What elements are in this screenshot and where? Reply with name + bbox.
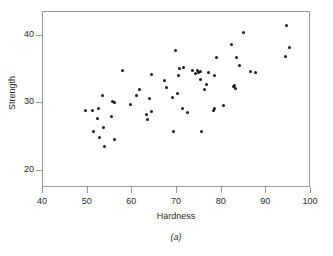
data-point xyxy=(111,100,114,103)
data-point xyxy=(284,55,287,58)
x-axis-tick-label: 100 xyxy=(295,196,325,206)
data-point xyxy=(110,115,113,118)
data-point xyxy=(138,88,141,91)
x-axis-tick xyxy=(265,187,266,193)
data-point xyxy=(213,107,216,110)
x-axis-tick xyxy=(42,187,43,193)
y-axis-tick xyxy=(36,170,42,171)
x-axis-tick xyxy=(221,187,222,193)
data-point xyxy=(176,92,179,95)
data-point xyxy=(215,56,218,59)
data-point xyxy=(249,70,252,73)
data-point xyxy=(197,71,200,74)
x-axis-tick-label: 70 xyxy=(161,196,191,206)
data-point xyxy=(84,109,87,112)
data-point xyxy=(148,97,151,100)
data-point xyxy=(150,73,153,76)
data-point xyxy=(178,67,181,70)
data-point xyxy=(207,71,210,74)
data-point xyxy=(232,85,235,88)
data-point xyxy=(234,87,237,90)
data-point xyxy=(172,130,175,133)
data-point xyxy=(98,136,101,139)
data-point xyxy=(103,145,106,148)
data-point xyxy=(199,70,202,73)
data-point xyxy=(213,74,216,77)
data-point xyxy=(165,86,168,89)
x-axis-label: Hardness xyxy=(42,211,310,221)
data-point xyxy=(135,94,138,97)
x-axis-tick-label: 40 xyxy=(27,196,57,206)
figure-caption: (a) xyxy=(42,232,310,242)
x-axis-tick xyxy=(310,187,311,193)
data-point xyxy=(196,69,199,72)
y-axis-tick xyxy=(36,35,42,36)
data-point xyxy=(102,126,105,129)
data-point xyxy=(113,138,116,141)
data-point xyxy=(174,49,177,52)
data-point xyxy=(203,88,206,91)
data-point xyxy=(129,103,132,106)
data-point xyxy=(92,130,95,133)
data-point xyxy=(186,111,189,114)
data-point xyxy=(181,107,184,110)
data-point xyxy=(242,31,245,34)
data-point xyxy=(233,84,236,87)
data-point xyxy=(205,83,208,86)
plot-frame xyxy=(42,11,310,187)
data-point xyxy=(171,96,174,99)
x-axis-tick-label: 50 xyxy=(72,196,102,206)
data-point xyxy=(194,72,197,75)
x-axis-tick-label: 60 xyxy=(116,196,146,206)
data-point xyxy=(91,109,94,112)
data-point xyxy=(191,69,194,72)
data-point xyxy=(200,130,203,133)
data-point xyxy=(150,110,153,113)
y-axis-label: Strength xyxy=(7,58,17,128)
data-point xyxy=(96,117,99,120)
data-point xyxy=(254,71,257,74)
x-axis-tick-label: 80 xyxy=(206,196,236,206)
x-axis-tick-label: 90 xyxy=(250,196,280,206)
data-point xyxy=(230,43,233,46)
data-point xyxy=(145,113,148,116)
data-point xyxy=(146,118,149,121)
scatter-plot-figure: Strength Hardness (a) 203040405060708090… xyxy=(0,0,333,256)
data-point xyxy=(113,101,116,104)
data-point xyxy=(199,78,202,81)
data-point xyxy=(285,24,288,27)
x-axis-tick xyxy=(176,187,177,193)
data-points-layer xyxy=(43,12,309,186)
data-point xyxy=(163,79,166,82)
data-point xyxy=(177,74,180,77)
y-axis-tick-label: 20 xyxy=(8,165,34,174)
x-axis-tick xyxy=(131,187,132,193)
y-axis-tick-label: 40 xyxy=(8,30,34,39)
data-point xyxy=(238,64,241,67)
data-point xyxy=(288,46,291,49)
data-point xyxy=(121,69,124,72)
data-point xyxy=(101,94,104,97)
data-point xyxy=(212,109,215,112)
y-axis-tick xyxy=(36,102,42,103)
data-point xyxy=(235,56,238,59)
x-axis-tick xyxy=(87,187,88,193)
data-point xyxy=(222,104,225,107)
y-axis-tick-label: 30 xyxy=(8,97,34,106)
data-point xyxy=(97,107,100,110)
data-point xyxy=(182,66,185,69)
